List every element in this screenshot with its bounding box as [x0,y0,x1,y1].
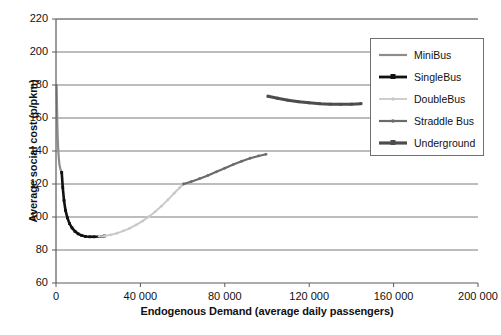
series-marker [63,199,66,202]
legend-item-doublebus: DoubleBus [371,87,485,110]
legend-item-minibus: MiniBus [371,43,485,66]
series-marker [207,174,210,177]
series-marker [215,170,218,173]
series-marker [84,235,87,238]
series-marker [265,153,268,156]
chart-legend: MiniBusSingleBusDoubleBusStraddle BusUnd… [370,38,484,156]
y-tick-label: 60 [14,277,48,288]
series-marker [147,215,150,218]
x-axis-title: Endogenous Demand (average daily passeng… [56,305,478,317]
x-tick-label: 160 000 [354,291,434,302]
y-tick-label: 120 [14,178,48,189]
legend-swatch-icon [378,47,408,63]
legend-label: Underground [414,137,475,149]
series-marker [359,102,362,105]
series-line [57,85,62,172]
series-marker [60,171,63,174]
series-marker [93,235,96,238]
series-marker [160,205,163,208]
series-marker [64,209,67,212]
x-tick-label: 0 [16,291,96,302]
series-marker [66,216,69,219]
series-line [268,96,361,104]
series-marker [257,155,260,158]
series-marker [98,235,101,238]
legend-label: SingleBus [414,71,461,83]
series-marker [77,232,80,235]
series-marker [154,210,157,213]
y-tick-label: 140 [14,145,48,156]
x-tick-label: 40 000 [100,291,180,302]
series-line [62,172,105,236]
series-marker [80,234,83,237]
series-marker [122,229,125,232]
series-marker [350,103,353,106]
legend-marker [391,97,395,101]
series-marker [173,192,176,195]
legend-item-singlebus: SingleBus [371,65,485,88]
series-marker [116,232,119,235]
chart-figure: Average social cost (p/pkm) 608010012014… [0,0,501,335]
series-marker [249,157,252,160]
series-marker [297,100,300,103]
series-marker [141,220,144,223]
x-tick-label: 120 000 [269,291,349,302]
series-marker [329,103,332,106]
series-marker [68,222,71,225]
series-line [99,184,183,236]
series-marker [166,198,169,201]
legend-item-underground: Underground [371,131,485,154]
legend-swatch-icon [378,91,408,107]
series-marker [103,235,106,238]
series-marker [267,95,270,98]
series-marker [276,97,279,100]
series-marker [61,186,64,189]
series-doublebus [98,183,185,238]
legend-swatch-icon [378,135,408,151]
series-marker [240,160,243,163]
series-marker [287,99,290,102]
x-tick-label: 200 000 [438,291,501,302]
series-marker [135,224,138,227]
series-marker [198,177,201,180]
legend-marker [391,74,396,79]
legend-marker [391,140,396,145]
series-marker [339,103,342,106]
series-marker [223,167,226,170]
y-tick-label: 160 [14,112,48,123]
series-marker [71,226,74,229]
series-marker [318,102,321,105]
y-tick-label: 180 [14,79,48,90]
series-marker [232,163,235,166]
x-tick-label: 80 000 [185,291,265,302]
y-tick-label: 220 [14,13,48,24]
legend-label: MiniBus [414,49,451,61]
y-tick-label: 80 [14,244,48,255]
legend-item-straddle-bus: Straddle Bus [371,109,485,132]
series-marker [109,233,112,236]
series-marker [308,101,311,104]
series-marker [190,180,193,183]
series-marker [74,230,77,233]
series-singlebus [60,171,106,238]
series-minibus [57,85,62,172]
series-marker [182,183,185,186]
data-series-group [57,85,363,238]
series-underground [267,95,363,106]
y-tick-label: 100 [14,211,48,222]
legend-label: DoubleBus [414,93,465,105]
series-straddle-bus [182,153,267,186]
series-marker [178,187,181,190]
series-marker [88,235,91,238]
legend-marker [391,119,395,123]
y-tick-label: 200 [14,46,48,57]
legend-swatch-icon [378,69,408,85]
legend-label: Straddle Bus [414,115,474,127]
series-marker [128,227,131,230]
legend-swatch-icon [378,113,408,129]
